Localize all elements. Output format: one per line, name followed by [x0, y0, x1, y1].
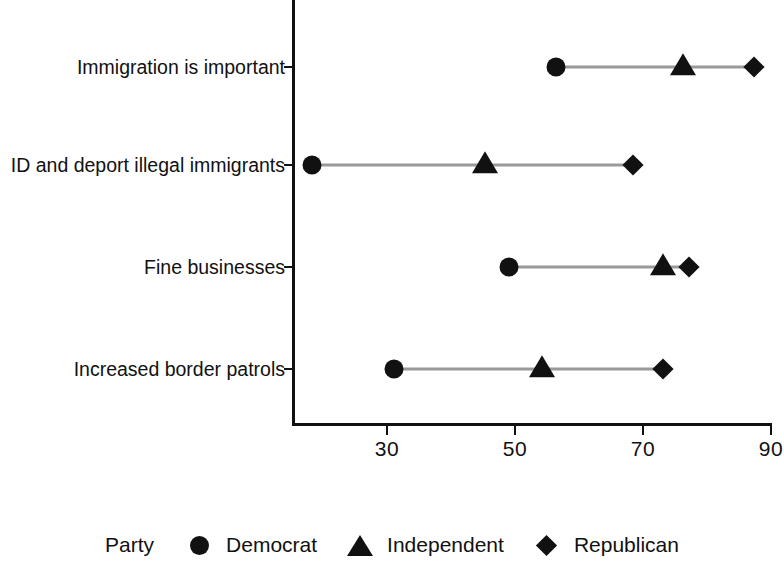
y-axis-label-immigration-is-important: Immigration is important [77, 56, 285, 79]
x-axis-tick-label: 90 [759, 437, 783, 461]
legend-item-democrat[interactable]: Democrat [186, 533, 317, 557]
x-axis-tick-label: 50 [503, 437, 527, 461]
legend-title: Party [105, 533, 154, 557]
y-axis-tick [284, 164, 293, 166]
x-axis-tick [642, 426, 644, 435]
data-point-republican[interactable] [652, 358, 673, 379]
y-axis-label-fine-businesses: Fine businesses [144, 256, 285, 279]
x-axis-tick [514, 426, 516, 435]
legend-label-independent: Independent [387, 533, 504, 557]
circle-marker-icon [186, 536, 212, 555]
x-axis-tick [770, 426, 772, 435]
y-axis-label-increased-border-patrols: Increased border patrols [74, 358, 285, 381]
range-connector-line [556, 66, 754, 69]
y-axis-line [292, 0, 295, 426]
data-point-democrat[interactable] [385, 360, 404, 379]
dot-plot-chart: Immigration is important ID and deport i… [0, 0, 784, 562]
y-axis-label-id-and-deport-illegal-immigrants: ID and deport illegal immigrants [11, 154, 285, 177]
legend-label-republican: Republican [574, 533, 679, 557]
legend-item-independent[interactable]: Independent [347, 533, 504, 557]
legend-item-republican[interactable]: Republican [534, 533, 679, 557]
y-axis-tick [284, 266, 293, 268]
data-point-republican[interactable] [744, 56, 765, 77]
data-point-independent[interactable] [529, 355, 555, 377]
x-axis-tick-label: 70 [631, 437, 655, 461]
diamond-marker-icon [534, 538, 560, 553]
data-point-independent[interactable] [670, 53, 696, 75]
x-axis-tick [386, 426, 388, 435]
x-axis-tick-label: 30 [375, 437, 399, 461]
y-axis-tick [284, 66, 293, 68]
data-point-republican[interactable] [678, 256, 699, 277]
data-point-independent[interactable] [650, 253, 676, 275]
data-point-republican[interactable] [622, 154, 643, 175]
legend-label-democrat: Democrat [226, 533, 317, 557]
data-point-independent[interactable] [472, 151, 498, 173]
x-axis-line [292, 423, 772, 426]
data-point-democrat[interactable] [546, 58, 565, 77]
data-point-democrat[interactable] [499, 258, 518, 277]
y-axis-tick [284, 368, 293, 370]
triangle-marker-icon [347, 535, 373, 556]
data-point-democrat[interactable] [303, 156, 322, 175]
legend: Party Democrat Independent Republican [0, 528, 784, 562]
